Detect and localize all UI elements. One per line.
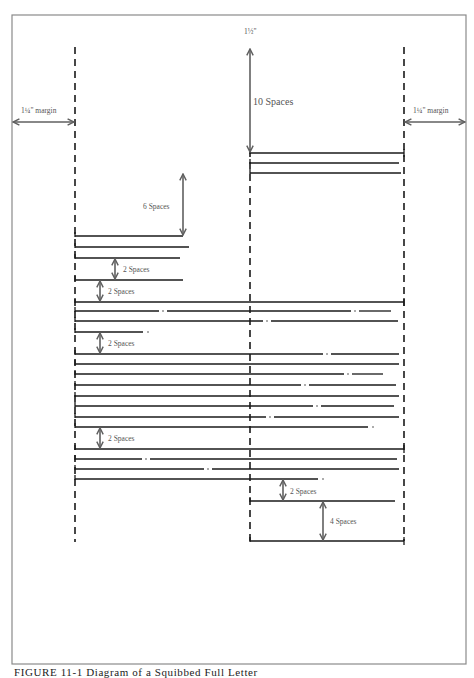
two-spaces-label-d: 2 Spaces xyxy=(108,434,135,443)
line-break-dot xyxy=(266,320,267,321)
line-break-dot xyxy=(347,373,348,374)
line-break-dot xyxy=(304,384,305,385)
two-spaces-label-c: 2 Spaces xyxy=(108,339,135,348)
two-spaces-label-b: 2 Spaces xyxy=(108,287,135,296)
line-break-dot xyxy=(316,405,317,406)
page-frame xyxy=(12,15,466,664)
line-break-dot xyxy=(145,458,146,459)
left-margin-label: 1¼" margin xyxy=(21,106,57,115)
line-break-dot xyxy=(162,310,163,311)
line-break-dot xyxy=(354,310,355,311)
two-spaces-label-a: 2 Spaces xyxy=(123,265,150,274)
line-break-dot xyxy=(269,416,270,417)
six-spaces-label: 6 Spaces xyxy=(143,202,170,211)
figure-caption: FIGURE 11-1 Diagram of a Squibbed Full L… xyxy=(14,666,258,678)
two-spaces-label-e: 2 Spaces xyxy=(290,487,317,496)
line-break-dot xyxy=(207,468,208,469)
line-end-dot xyxy=(147,331,148,332)
line-end-dot xyxy=(322,478,323,479)
top-margin-label: 1½" xyxy=(244,27,256,36)
right-margin-label: 1¼" margin xyxy=(413,106,449,115)
line-break-dot xyxy=(326,353,327,354)
ten-spaces-label: 10 Spaces xyxy=(253,96,293,107)
four-spaces-label: 4 Spaces xyxy=(330,517,357,526)
line-end-dot xyxy=(372,426,373,427)
